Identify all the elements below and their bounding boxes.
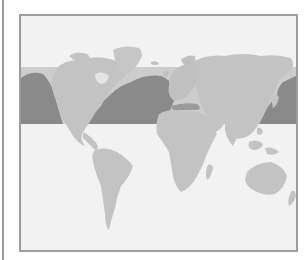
new-zealand <box>288 191 296 206</box>
australia <box>245 162 287 195</box>
south-america <box>92 148 133 230</box>
world-map <box>21 16 296 250</box>
central-america <box>83 132 98 150</box>
indonesia <box>249 140 264 150</box>
iceland <box>151 61 159 65</box>
world-map-frame <box>19 14 298 252</box>
philippines <box>257 128 263 135</box>
africa <box>156 110 217 193</box>
new-guinea <box>265 148 279 155</box>
madagascar <box>206 164 213 180</box>
left-vertical-rule <box>2 0 4 260</box>
